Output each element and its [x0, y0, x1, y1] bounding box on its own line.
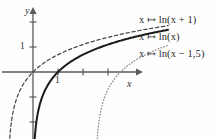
y-tick-label-1: 1: [20, 41, 25, 51]
curve-label-ln-x-minus-1-5: x ↦ ln(x − 1,5): [139, 47, 217, 59]
y-axis-arrow: [29, 7, 36, 14]
curve-label-ln-x: x ↦ ln(x): [139, 30, 217, 42]
curve-labels-legend: x ↦ ln(x + 1) x ↦ ln(x) x ↦ ln(x − 1,5): [139, 13, 217, 64]
x-axis-label: x: [127, 78, 131, 89]
x-axis-arrow: [136, 68, 143, 75]
x-tick-label-1: 1: [55, 75, 60, 85]
curve-label-ln-x-plus-1: x ↦ ln(x + 1): [139, 13, 217, 25]
logarithm-functions-figure: y x 1 1 x ↦ ln(x + 1) x ↦ ln(x) x ↦ ln(x…: [0, 0, 217, 139]
axes-group: [2, 7, 143, 139]
y-axis-label: y: [25, 5, 29, 16]
